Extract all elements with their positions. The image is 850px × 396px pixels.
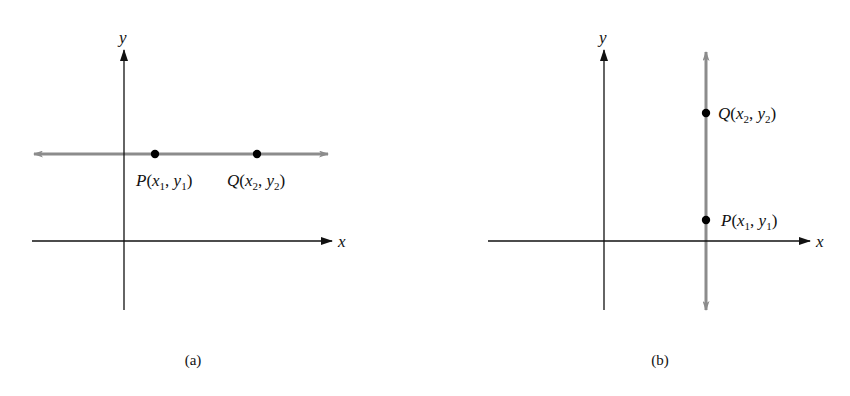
x-axis-label: x [815,232,824,251]
panel-a-caption: (a) [185,352,202,369]
x-axis-label: x [337,232,346,251]
panel-b-caption: (b) [651,352,669,369]
point-q-dot [702,109,710,117]
figure-canvas: y x P(x1, y1) Q(x2, y2) (a) y x Q(x2, y2… [0,0,850,396]
point-q-label: Q(x2, y2) [227,171,285,192]
point-p-dot [151,150,159,158]
y-axis-label: y [117,28,127,47]
y-axis-label: y [597,28,607,47]
panel-a: y x P(x1, y1) Q(x2, y2) (a) [32,28,346,369]
point-p-label: P(x1, y1) [135,171,192,192]
point-q-dot [253,150,261,158]
point-p-dot [702,216,710,224]
point-q-label: Q(x2, y2) [718,104,776,125]
point-p-label: P(x1, y1) [720,211,777,232]
panel-b: y x Q(x2, y2) P(x1, y1) (b) [488,28,824,369]
